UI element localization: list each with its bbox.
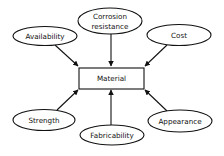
edge-strength-material (57, 90, 78, 110)
strength-label: Strength (28, 116, 59, 125)
node-appearance: Appearance (148, 110, 212, 132)
edge-availability-material (55, 45, 78, 66)
corrosion-label-line2: resistance (92, 22, 129, 31)
node-cost: Cost (147, 25, 211, 46)
material-factors-diagram: Material Availability Corrosion resistan… (0, 0, 224, 156)
corrosion-label-line1: Corrosion (93, 12, 127, 21)
cost-label: Cost (171, 31, 187, 40)
availability-label: Availability (25, 32, 65, 41)
node-corrosion-resistance: Corrosion resistance (78, 8, 142, 34)
edge-cost-material (145, 45, 167, 66)
edge-appearance-material (145, 90, 167, 111)
fabricability-label: Fabricability (90, 131, 134, 140)
node-fabricability: Fabricability (80, 125, 144, 145)
material-label: Material (97, 74, 126, 83)
appearance-label: Appearance (158, 117, 202, 126)
node-material: Material (79, 68, 144, 89)
node-availability: Availability (13, 27, 77, 46)
node-strength: Strength (13, 110, 75, 131)
